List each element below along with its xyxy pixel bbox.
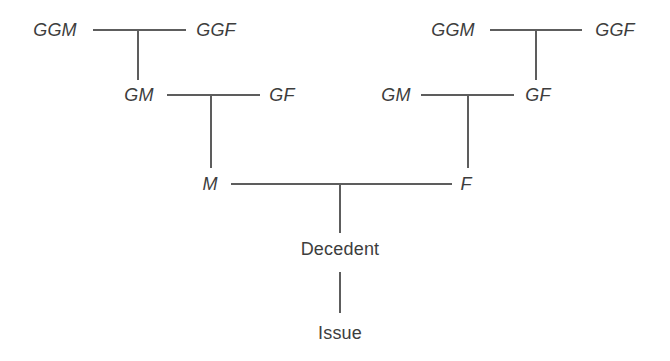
node-label-gm-left: GM <box>124 86 153 104</box>
node-label-gm-right: GM <box>381 86 410 104</box>
node-label-ggm-right: GGM <box>431 21 475 39</box>
node-label-issue: Issue <box>318 324 362 342</box>
node-label-ggf-left: GGF <box>196 21 236 39</box>
node-label-decedent: Decedent <box>301 240 380 258</box>
pedigree-connector-layer <box>0 0 670 361</box>
pedigree-diagram: GGMGGFGMGFMGGMGGFGMGFFDecedentIssue <box>0 0 670 361</box>
node-label-gf-left: GF <box>269 86 294 104</box>
node-label-ggf-right: GGF <box>595 21 635 39</box>
node-label-ggm-left: GGM <box>33 21 77 39</box>
connector-group <box>93 30 582 313</box>
node-label-gf-right: GF <box>525 86 550 104</box>
node-label-father: F <box>460 175 471 193</box>
node-label-mother: M <box>202 175 217 193</box>
